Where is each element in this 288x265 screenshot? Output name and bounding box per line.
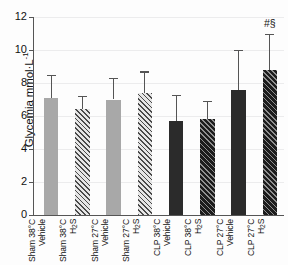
subscript: 2: [197, 225, 204, 229]
bar: [231, 90, 246, 215]
y-tick-mark: [29, 50, 34, 51]
gridline: [34, 116, 284, 117]
error-bar-cap: [203, 101, 212, 102]
subscript: 2: [72, 225, 79, 229]
y-tick-mark: [29, 83, 34, 84]
y-tick-label: 8: [6, 76, 27, 88]
error-bar-stem: [207, 101, 208, 119]
gridline: [34, 182, 284, 183]
gridline: [34, 50, 284, 51]
y-tick-mark: [29, 149, 34, 150]
y-tick-label: 0: [6, 208, 27, 220]
gridline: [34, 83, 284, 84]
error-bar-cap: [172, 95, 181, 96]
bar: [200, 119, 215, 215]
y-tick-label: 4: [6, 142, 27, 154]
error-bar-stem: [82, 96, 83, 109]
error-bar-cap: [265, 34, 274, 35]
gridline: [34, 149, 284, 150]
y-tick-mark: [29, 182, 34, 183]
y-tick-label: 12: [6, 10, 27, 22]
glycemia-bar-chart: Glycemia mmol·L-1 #§ 024681012 Sham 38°C…: [0, 0, 288, 265]
y-tick-mark: [29, 116, 34, 117]
error-bar-cap: [109, 78, 118, 79]
y-tick-mark: [29, 17, 34, 18]
error-bar-stem: [113, 78, 114, 99]
error-bar-stem: [238, 50, 239, 90]
error-bar-stem: [144, 71, 145, 92]
error-bar-cap: [140, 71, 149, 72]
error-bar-stem: [51, 75, 52, 98]
significance-annotation: #§: [264, 17, 276, 29]
error-bar-stem: [176, 95, 177, 121]
y-tick-mark: [29, 215, 34, 216]
bar: [138, 93, 153, 215]
plot-area: #§: [34, 17, 284, 215]
subscript: 2: [134, 225, 141, 229]
y-tick-label: 6: [6, 109, 27, 121]
error-bar-cap: [234, 50, 243, 51]
bar: [106, 100, 121, 216]
gridline: [34, 17, 284, 18]
subscript: 2: [259, 225, 266, 229]
x-tick-label: CLP 27°C H2S: [247, 219, 288, 263]
error-bar-cap: [78, 96, 87, 97]
error-bar-cap: [47, 75, 56, 76]
bar: [75, 109, 90, 215]
y-tick-label: 10: [6, 43, 27, 55]
bar: [263, 70, 278, 215]
bar: [44, 98, 59, 215]
error-bar-stem: [269, 34, 270, 70]
y-tick-label: 2: [6, 175, 27, 187]
bar: [169, 121, 184, 215]
